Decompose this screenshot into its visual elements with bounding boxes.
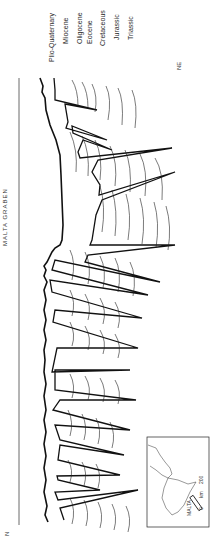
legend-cretaceous: Cretaceous <box>99 10 106 46</box>
legend-eocene: Eocene <box>86 20 93 44</box>
legend-jurassic: Jurassic <box>113 14 120 40</box>
inset-scale-unit: km <box>198 491 204 498</box>
inset-malta-label: MALTA <box>186 500 192 516</box>
direction-label-ne: NE <box>176 62 182 70</box>
legend-oligocene: Oligocene <box>76 12 83 44</box>
inset-scale-max: 200 <box>198 476 204 484</box>
legend-plio-quaternary: Plio-Quaternary <box>48 13 55 62</box>
seafloor-line <box>40 78 63 522</box>
direction-label-n: N <box>4 532 10 536</box>
figure-title: MALTA GRABEN <box>2 188 8 246</box>
inset-scale-min: 0 <box>198 507 204 510</box>
legend-triassic: Triassic <box>127 16 134 40</box>
legend-miocene: Miocene <box>62 18 69 44</box>
malta-graben-cross-section <box>0 0 216 536</box>
